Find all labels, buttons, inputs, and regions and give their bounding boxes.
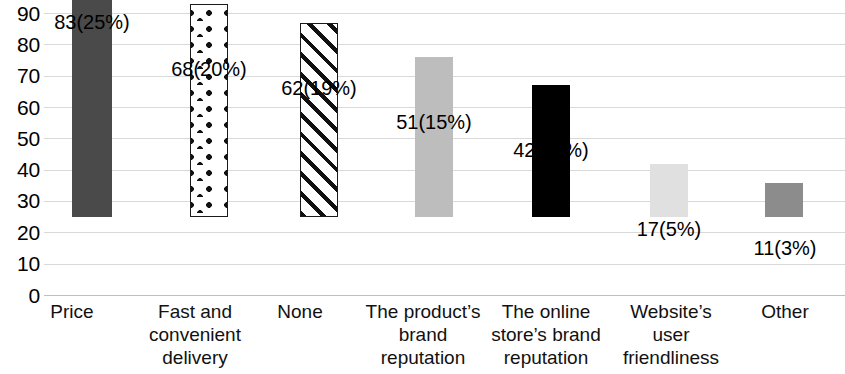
gridline-10: [44, 264, 845, 265]
y-axis-tick-60: 60: [0, 97, 40, 118]
x-label-fast-line3: delivery: [140, 346, 250, 369]
x-label-online-line1: The online: [483, 300, 609, 323]
y-axis-tick-20: 20: [0, 222, 40, 243]
y-axis-tick-30: 30: [0, 190, 40, 211]
x-label-website-user-friendliness: Website’s user friendliness: [611, 300, 731, 369]
x-label-fast-and-convenient-delivery: Fast and convenient delivery: [140, 300, 250, 369]
bar-other[interactable]: [765, 183, 803, 217]
gridline-20: [44, 232, 845, 233]
data-label-price: 83(25%): [42, 11, 142, 33]
y-axis-labels: 90 80 70 60 50 40 30 20 10 0: [0, 0, 40, 296]
y-axis-tick-80: 80: [0, 34, 40, 55]
x-label-website-line2: user: [611, 323, 731, 346]
y-axis-tick-40: 40: [0, 159, 40, 180]
y-axis-tick-10: 10: [0, 253, 40, 274]
data-label-product-brand-reputation: 51(15%): [384, 111, 484, 133]
bar-none[interactable]: [300, 23, 338, 217]
y-axis-tick-70: 70: [0, 65, 40, 86]
x-label-product-line1: The product’s: [360, 300, 486, 323]
x-label-fast-line2: convenient: [140, 323, 250, 346]
bar-website-user-friendliness[interactable]: [650, 164, 688, 217]
x-label-online-line3: reputation: [483, 346, 609, 369]
bar-fast-and-convenient-delivery[interactable]: [190, 4, 228, 217]
bar-chart: 90 80 70 60 50 40 30 20 10 0 83(25%) 68(…: [0, 0, 845, 374]
x-label-product-brand-reputation: The product’s brand reputation: [360, 300, 486, 369]
data-label-online-store-brand-reputation: 42(13%): [501, 139, 601, 161]
data-label-fast-and-convenient-delivery: 68(20%): [159, 58, 259, 80]
x-label-product-line3: reputation: [360, 346, 486, 369]
x-label-price: Price: [22, 300, 122, 323]
x-label-online-store-brand-reputation: The online store’s brand reputation: [483, 300, 609, 369]
data-label-website-user-friendliness: 17(5%): [622, 218, 716, 240]
data-label-none: 62(19%): [269, 77, 369, 99]
gridline-80: [44, 44, 845, 45]
x-label-other: Other: [735, 300, 835, 323]
y-axis-tick-50: 50: [0, 128, 40, 149]
x-label-product-line2: brand: [360, 323, 486, 346]
x-label-online-line2: store’s brand: [483, 323, 609, 346]
x-label-website-line3: friendliness: [611, 346, 731, 369]
x-axis-labels: Price Fast and convenient delivery None …: [0, 300, 845, 374]
data-label-other: 11(3%): [738, 237, 832, 259]
x-label-none-line1: None: [250, 300, 350, 323]
gridline-90: [44, 13, 845, 14]
gridline-baseline-0: [44, 295, 845, 296]
y-axis-tick-90: 90: [0, 3, 40, 24]
x-label-fast-line1: Fast and: [140, 300, 250, 323]
x-label-website-line1: Website’s: [611, 300, 731, 323]
x-label-none: None: [250, 300, 350, 323]
bar-product-brand-reputation[interactable]: [415, 57, 453, 217]
plot-area: 83(25%) 68(20%) 62(19%) 51(15%) 42(13%) …: [44, 0, 845, 296]
x-label-price-line1: Price: [22, 300, 122, 323]
x-label-other-line1: Other: [735, 300, 835, 323]
